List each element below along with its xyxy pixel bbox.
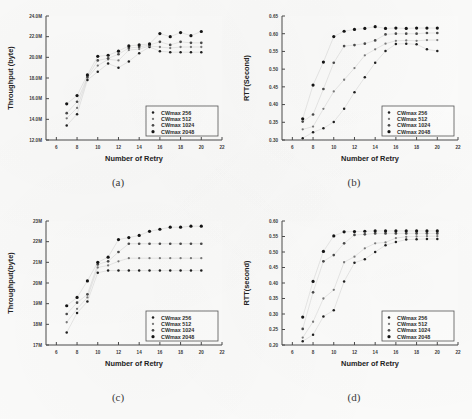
x-tick-label: 6 xyxy=(291,350,294,355)
y-tick-label: 24.0M xyxy=(29,14,42,19)
y-tick-label: 18M xyxy=(33,322,42,327)
x-tick-label: 14 xyxy=(137,350,143,355)
legend-label: CWmax 2048 xyxy=(161,129,194,135)
y-tick-label: 14.0M xyxy=(29,117,42,122)
y-tick-label: 22.0M xyxy=(29,34,42,39)
x-axis-title: Number of Retry xyxy=(341,154,400,163)
panel-c-caption: (c) xyxy=(0,391,236,403)
panel-d-caption: (d) xyxy=(236,391,472,403)
x-tick-label: 8 xyxy=(312,350,315,355)
legend-label: CWmax 1024 xyxy=(161,327,194,333)
x-tick-label: 16 xyxy=(393,145,399,150)
legend-label: CWmax 512 xyxy=(397,116,427,122)
y-tick-label: 20.0M xyxy=(29,55,42,60)
y-axis-title: RTT(Second) xyxy=(242,54,251,101)
legend-label: CWmax 1024 xyxy=(397,327,430,333)
y-tick-label: 16.0M xyxy=(29,96,42,101)
x-tick-label: 6 xyxy=(55,350,58,355)
x-tick-label: 6 xyxy=(291,145,294,150)
x-tick-label: 8 xyxy=(312,145,315,150)
panel-c-cell: 681012141618202217M18M19M20M21M22M23MNum… xyxy=(0,205,236,419)
x-tick-label: 8 xyxy=(76,145,79,150)
x-tick-label: 20 xyxy=(435,145,441,150)
x-tick-label: 10 xyxy=(95,350,101,355)
x-tick-label: 18 xyxy=(178,350,184,355)
x-tick-label: 16 xyxy=(157,145,163,150)
x-tick-label: 12 xyxy=(352,350,358,355)
legend-label: CWmax 2048 xyxy=(161,334,194,340)
y-tick-label: 0.45 xyxy=(269,265,278,270)
legend-label: CWmax 2048 xyxy=(397,334,430,340)
x-tick-label: 22 xyxy=(455,145,461,150)
legend-label: CWmax 512 xyxy=(397,321,427,327)
legend: CWmax 256CWmax 512CWmax 1024CWmax 2048 xyxy=(382,106,454,136)
x-tick-label: 16 xyxy=(157,350,163,355)
x-axis-title: Number of Retry xyxy=(105,359,164,368)
y-tick-label: 17M xyxy=(33,343,42,348)
legend-label: CWmax 512 xyxy=(161,116,191,122)
legend-label: CWmax 1024 xyxy=(397,122,430,128)
legend-label: CWmax 2048 xyxy=(397,129,430,135)
y-axis-title: RTT(second) xyxy=(242,260,251,306)
chart-panel-d: 68101214161820220.200.250.300.350.400.45… xyxy=(236,205,472,385)
y-tick-label: 0.50 xyxy=(269,67,278,72)
x-tick-label: 20 xyxy=(435,350,441,355)
y-axis-title: Throughput(byte) xyxy=(6,252,15,314)
x-tick-label: 18 xyxy=(414,350,420,355)
y-tick-label: 0.55 xyxy=(269,234,278,239)
y-tick-label: 19M xyxy=(33,301,42,306)
x-tick-label: 10 xyxy=(95,145,101,150)
legend: CWmax 256CWmax 512CWmax 1024CWmax 2048 xyxy=(146,311,218,341)
x-axis-title: Number of Retry xyxy=(105,154,164,163)
scatter-plot-d: 68101214161820220.200.250.300.350.400.45… xyxy=(236,205,472,385)
y-tick-label: 0.35 xyxy=(269,296,278,301)
chart-panel-a: 681012141618202212.0M14.0M16.0M18.0M20.0… xyxy=(0,0,236,180)
x-tick-label: 18 xyxy=(414,145,420,150)
x-tick-label: 12 xyxy=(116,350,122,355)
y-tick-label: 0.40 xyxy=(269,102,278,107)
y-tick-label: 0.30 xyxy=(269,138,278,143)
y-tick-label: 0.30 xyxy=(269,312,278,317)
panel-a-cell: 681012141618202212.0M14.0M16.0M18.0M20.0… xyxy=(0,0,236,205)
y-tick-label: 20M xyxy=(33,281,42,286)
y-tick-label: 12.0M xyxy=(29,138,42,143)
x-tick-label: 18 xyxy=(178,145,184,150)
x-tick-label: 6 xyxy=(55,145,58,150)
panel-d-cell: 68101214161820220.200.250.300.350.400.45… xyxy=(236,205,472,419)
x-tick-label: 14 xyxy=(373,145,379,150)
scatter-plot-c: 681012141618202217M18M19M20M21M22M23MNum… xyxy=(0,205,236,385)
x-tick-label: 16 xyxy=(393,350,399,355)
legend-label: CWmax 256 xyxy=(397,110,427,116)
y-tick-label: 0.45 xyxy=(269,85,278,90)
panel-a-caption: (a) xyxy=(0,176,236,188)
scatter-plot-a: 681012141618202212.0M14.0M16.0M18.0M20.0… xyxy=(0,0,236,180)
y-axis-title: Throughput (byte) xyxy=(6,46,15,110)
y-tick-label: 0.60 xyxy=(269,32,278,37)
x-tick-label: 12 xyxy=(116,145,122,150)
x-tick-label: 22 xyxy=(455,350,461,355)
y-tick-label: 0.40 xyxy=(269,281,278,286)
y-tick-label: 0.50 xyxy=(269,250,278,255)
legend: CWmax 256CWmax 512CWmax 1024CWmax 2048 xyxy=(382,311,454,341)
legend-label: CWmax 512 xyxy=(161,321,191,327)
y-tick-label: 0.55 xyxy=(269,49,278,54)
y-tick-label: 21M xyxy=(33,260,42,265)
scatter-plot-b: 68101214161820220.300.350.400.450.500.55… xyxy=(236,0,472,180)
x-tick-label: 8 xyxy=(76,350,79,355)
x-tick-label: 10 xyxy=(331,145,337,150)
y-tick-label: 23M xyxy=(33,219,42,224)
legend: CWmax 256CWmax 512CWmax 1024CWmax 2048 xyxy=(146,106,218,136)
x-tick-label: 22 xyxy=(219,350,225,355)
y-tick-label: 0.35 xyxy=(269,120,278,125)
y-tick-label: 22M xyxy=(33,239,42,244)
x-tick-label: 14 xyxy=(373,350,379,355)
x-axis-title: Number of Retry xyxy=(341,359,400,368)
x-tick-label: 14 xyxy=(137,145,143,150)
legend-label: CWmax 256 xyxy=(397,315,427,321)
panel-b-cell: 68101214161820220.300.350.400.450.500.55… xyxy=(236,0,472,205)
y-tick-label: 0.65 xyxy=(269,14,278,19)
chart-panel-b: 68101214161820220.300.350.400.450.500.55… xyxy=(236,0,472,180)
y-tick-label: 0.25 xyxy=(269,327,278,332)
legend-label: CWmax 256 xyxy=(161,315,191,321)
x-tick-label: 12 xyxy=(352,145,358,150)
